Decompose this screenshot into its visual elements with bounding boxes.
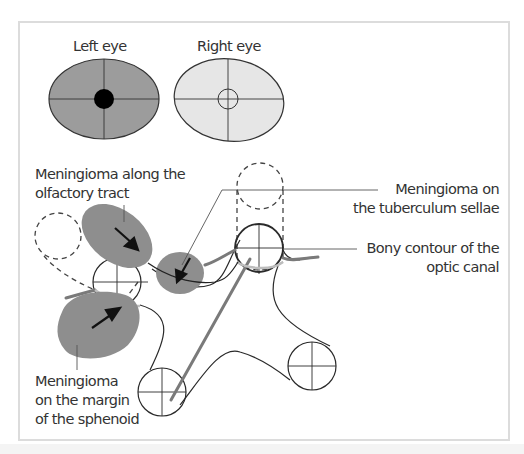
right-eye-visual-field: [169, 52, 289, 149]
label-olfactory-tract-meningioma: Meningioma along the olfactory tract: [35, 165, 185, 203]
label-optic-canal: Bony contour of the optic canal: [366, 239, 499, 277]
label-tuberculum-sellae-meningioma: Meningioma on the tuberculum sellae: [353, 180, 499, 218]
label-sphenoid-meningioma: Meningioma on the margin of the sphenoid: [35, 372, 139, 429]
sphenoid-margin-meningioma: [57, 292, 139, 359]
meningioma-visual-field-diagram: Left eye Right eye: [0, 0, 524, 454]
left-eye-visual-field: [49, 59, 159, 139]
central-scotoma-icon: [94, 89, 114, 109]
